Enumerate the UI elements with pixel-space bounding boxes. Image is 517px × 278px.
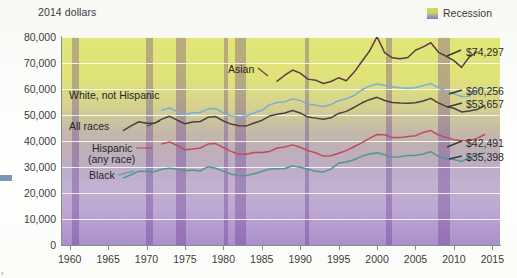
y-tick-label-40000: 40,000 — [0, 135, 56, 147]
x-tick-1990 — [300, 246, 301, 250]
series-label-black: Black — [89, 170, 115, 182]
x-tick-label-1990: 1990 — [289, 253, 312, 265]
y-axis-line — [61, 36, 62, 246]
end-label-hispanic: $42,491 — [466, 137, 504, 149]
x-tick-label-1980: 1980 — [212, 253, 235, 265]
scan-corner-artifact: s — [1, 271, 4, 276]
x-tick-2015 — [492, 246, 493, 250]
y-tick-label-80000: 80,000 — [0, 31, 56, 43]
x-tick-1980 — [223, 246, 224, 250]
x-tick-1985 — [262, 246, 263, 250]
x-tick-label-2005: 2005 — [404, 253, 427, 265]
y-axis-title: 2014 dollars — [38, 6, 96, 18]
x-tick-label-2015: 2015 — [481, 253, 504, 265]
x-tick-1975 — [185, 246, 186, 250]
x-tick-label-1965: 1965 — [96, 253, 119, 265]
recession-legend: Recession — [427, 7, 492, 19]
x-tick-label-1985: 1985 — [250, 253, 273, 265]
series-label-asian: Asian — [228, 64, 254, 76]
series-label-hispanic-sub: (any race) — [88, 154, 135, 166]
x-tick-label-1960: 1960 — [58, 253, 81, 265]
scan-edge-marker — [0, 175, 12, 181]
end-label-asian: $74,297 — [466, 46, 504, 58]
x-tick-2000 — [377, 246, 378, 250]
x-tick-1995 — [339, 246, 340, 250]
x-tick-1970 — [147, 246, 148, 250]
series-line-white-not-hispanic — [162, 84, 485, 118]
x-tick-1965 — [108, 246, 109, 250]
series-line-black — [123, 152, 484, 178]
chart-page: 2014 dollars Recession 80,00070,00060,00… — [0, 0, 517, 278]
end-label-black: $35,398 — [466, 151, 504, 163]
series-line-asian — [277, 37, 477, 84]
series-line-hispanic-any-race — [162, 131, 485, 156]
recession-swatch-icon — [427, 8, 438, 19]
x-tick-label-2000: 2000 — [365, 253, 388, 265]
end-label-white: $60,256 — [466, 85, 504, 97]
recession-legend-label: Recession — [443, 7, 492, 19]
y-tick-label-70000: 70,000 — [0, 57, 56, 69]
x-tick-label-1995: 1995 — [327, 253, 350, 265]
series-lines — [62, 37, 500, 245]
plot-area — [62, 37, 500, 245]
x-tick-label-1970: 1970 — [135, 253, 158, 265]
series-label-white: White, not Hispanic — [69, 90, 159, 102]
y-tick-label-60000: 60,000 — [0, 83, 56, 95]
x-axis-line — [61, 245, 501, 246]
x-tick-1960 — [70, 246, 71, 250]
y-tick-label-20000: 20,000 — [0, 187, 56, 199]
x-tick-label-1975: 1975 — [173, 253, 196, 265]
x-tick-label-2010: 2010 — [442, 253, 465, 265]
series-label-all-races: All races — [69, 121, 109, 133]
y-tick-label-10000: 10,000 — [0, 213, 56, 225]
end-label-all-races: $53,657 — [466, 98, 504, 110]
x-tick-2005 — [415, 246, 416, 250]
y-tick-label-50000: 50,000 — [0, 109, 56, 121]
x-tick-2010 — [454, 246, 455, 250]
y-tick-label-30000: 30,000 — [0, 161, 56, 173]
y-tick-label-0: 0 — [0, 239, 56, 251]
